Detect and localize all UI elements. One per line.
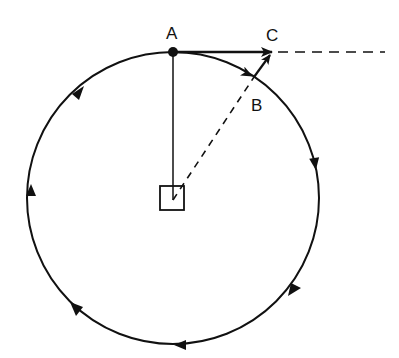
radius-to-B (173, 77, 254, 200)
delta-velocity-vector-BC (254, 55, 270, 77)
arc-arrow-to-B-icon (228, 64, 252, 76)
label-B: B (251, 96, 262, 115)
label-C: C (266, 26, 278, 45)
direction-arrow-icon (70, 302, 83, 316)
center-marker (160, 186, 184, 210)
label-A: A (166, 24, 178, 43)
point-A-dot (168, 47, 178, 57)
direction-arrow-icon (174, 340, 186, 350)
diagram-canvas: A B C (0, 0, 399, 358)
